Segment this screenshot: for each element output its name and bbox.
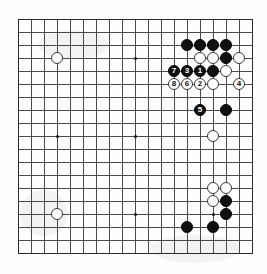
go-stone-white[interactable] [51,208,63,220]
grid-line-horizontal [18,32,253,33]
star-point [134,135,137,138]
go-stone-black[interactable] [207,221,219,233]
go-board-grid[interactable]: 73186245 [18,19,253,254]
move-number: 1 [198,67,202,75]
go-stone-white[interactable] [207,78,219,90]
go-stone-white[interactable] [233,52,245,64]
go-stone-black-move-7[interactable]: 7 [168,65,180,77]
go-stone-black[interactable] [181,221,193,233]
move-number: 2 [198,80,202,88]
go-stone-black[interactable] [181,39,193,51]
grid-line-horizontal [18,19,253,20]
go-stone-black-move-1[interactable]: 1 [194,65,206,77]
star-point [134,57,137,60]
grid-line-horizontal [18,240,253,241]
star-point [134,213,137,216]
grid-line-horizontal [18,253,253,254]
go-stone-white[interactable] [194,52,206,64]
go-stone-white[interactable] [207,195,219,207]
grid-line-horizontal [18,162,253,163]
go-stone-black[interactable] [220,104,232,116]
move-number: 4 [237,80,241,88]
go-stone-white-move-6[interactable]: 6 [181,78,193,90]
grid-line-horizontal [18,97,253,98]
move-number: 7 [172,67,176,75]
move-number: 3 [185,67,189,75]
go-stone-white-move-4[interactable]: 4 [233,78,245,90]
go-stone-white-move-2[interactable]: 2 [194,78,206,90]
go-stone-black[interactable] [194,39,206,51]
go-stone-black[interactable] [220,208,232,220]
go-stone-white[interactable] [207,130,219,142]
move-number: 8 [172,80,176,88]
grid-line-horizontal [18,123,253,124]
go-stone-black[interactable] [220,39,232,51]
go-stone-black-move-5[interactable]: 5 [194,104,206,116]
go-stone-white[interactable] [207,182,219,194]
go-stone-black[interactable] [220,52,232,64]
go-stone-black-move-3[interactable]: 3 [181,65,193,77]
go-stone-black[interactable] [220,195,232,207]
go-diagram: 73186245 [0,0,267,274]
go-stone-white[interactable] [51,52,63,64]
go-stone-white[interactable] [207,52,219,64]
star-point [212,213,215,216]
grid-line-horizontal [18,175,253,176]
move-number: 5 [198,106,202,114]
star-point [56,135,59,138]
go-stone-white-move-8[interactable]: 8 [168,78,180,90]
go-stone-black[interactable] [207,39,219,51]
grid-line-horizontal [18,149,253,150]
go-stone-white[interactable] [220,182,232,194]
grid-line-horizontal [18,110,253,111]
go-stone-black[interactable] [207,65,219,77]
go-stone-white[interactable] [220,65,232,77]
move-number: 6 [185,80,189,88]
